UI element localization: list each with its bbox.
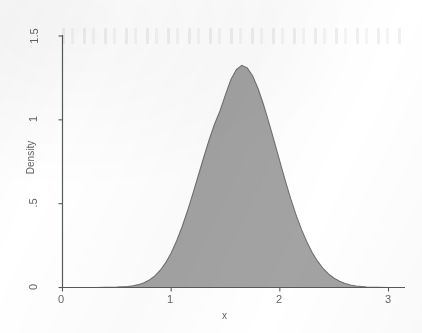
- x-axis-title: x: [222, 310, 227, 321]
- y-axis-title: Density: [25, 136, 36, 180]
- x-tick-label-0: 0: [58, 293, 64, 305]
- x-tick-label-2: 2: [276, 293, 282, 305]
- y-tick-label-1-5: 1.5: [28, 28, 40, 43]
- y-tick-label-1: 1: [27, 116, 39, 122]
- y-tick-label-0: 0: [27, 284, 39, 290]
- x-tick-label-3: 3: [385, 293, 391, 305]
- density-plot-figure: 1.5 1 .5 0 0 1 2 3 Density x: [0, 0, 422, 333]
- x-tick-label-1: 1: [167, 293, 173, 305]
- y-tick-label-point-5: .5: [27, 198, 39, 207]
- density-chart-canvas: [0, 0, 422, 333]
- density-area-fill: [63, 65, 389, 287]
